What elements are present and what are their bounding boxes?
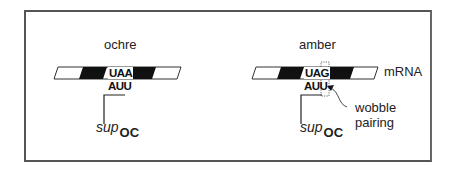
ochre-anticodon: AUU [108,80,131,92]
wobble-arrow [327,85,347,107]
amber-title: amber [299,37,336,52]
ochre-codon: UAA [108,67,133,79]
amber-codon: UAG [304,67,330,79]
suppressor-subscript: OC [324,125,344,140]
mrna-label: mRNA [384,64,422,79]
pairing-label: pairing [355,115,394,130]
wobble-label: wobble [355,100,396,115]
ochre-title: ochre [104,37,137,52]
suppressor-base: sup [96,119,119,135]
ochre-suppressor-label: supOC [96,119,139,135]
suppressor-base: sup [300,119,323,135]
diagram-graphics [0,0,458,174]
amber-anticodon: AUU [304,80,327,92]
amber-suppressor-label: supOC [300,119,343,135]
suppressor-subscript: OC [120,125,140,140]
